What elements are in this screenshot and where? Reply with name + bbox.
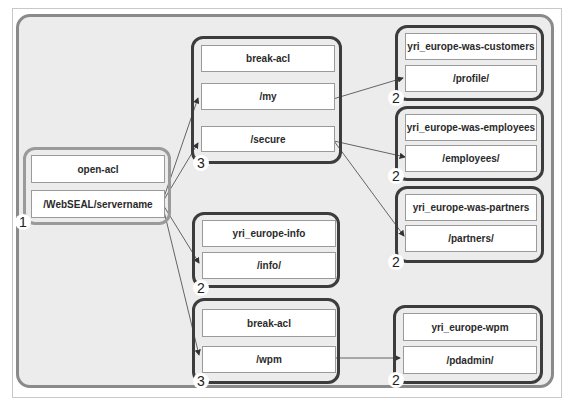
group-customers: yri_europe-was-customers /profile/: [395, 25, 544, 101]
cell-yri-europe-info[interactable]: yri_europe-info: [202, 220, 336, 247]
group-my-secure: break-acl /my /secure: [191, 36, 342, 164]
cell-my[interactable]: /my: [201, 83, 335, 110]
badge-partners: 2: [388, 254, 404, 270]
cell-employees[interactable]: /employees/: [405, 145, 537, 172]
cell-yri-europe-was-partners[interactable]: yri_europe-was-partners: [405, 194, 537, 221]
group-info: yri_europe-info /info/: [192, 212, 340, 288]
badge-root: 1: [15, 214, 31, 230]
cell-yri-europe-was-customers[interactable]: yri_europe-was-customers: [405, 33, 537, 60]
cell-yri-europe-was-employees[interactable]: yri_europe-was-employees: [405, 114, 537, 141]
cell-break-acl-wpm[interactable]: break-acl: [202, 309, 336, 337]
cell-profile[interactable]: /profile/: [405, 65, 537, 92]
cell-webseal-servername[interactable]: /WebSEAL/servername: [31, 190, 165, 218]
cell-secure[interactable]: /secure: [201, 126, 335, 152]
badge-pdadmin: 2: [388, 372, 404, 388]
cell-yri-europe-wpm[interactable]: yri_europe-wpm: [403, 313, 537, 341]
cell-info[interactable]: /info/: [202, 252, 336, 279]
badge-wpm: 3: [193, 373, 209, 389]
group-partners: yri_europe-was-partners /partners/: [395, 186, 544, 263]
cell-wpm[interactable]: /wpm: [202, 346, 336, 373]
badge-info: 2: [193, 280, 209, 296]
group-pdadmin: yri_europe-wpm /pdadmin/: [393, 305, 543, 384]
cell-partners[interactable]: /partners/: [405, 225, 537, 252]
cell-pdadmin[interactable]: /pdadmin/: [403, 346, 537, 374]
cell-open-acl[interactable]: open-acl: [31, 155, 165, 183]
badge-employees: 2: [388, 168, 404, 184]
badge-my-secure: 3: [193, 155, 209, 171]
cell-break-acl[interactable]: break-acl: [201, 45, 335, 72]
badge-customers: 2: [388, 90, 404, 106]
group-employees: yri_europe-was-employees /employees/: [395, 106, 544, 181]
group-wpm: break-acl /wpm: [192, 298, 340, 384]
group-root: open-acl /WebSEAL/servername: [23, 147, 171, 225]
